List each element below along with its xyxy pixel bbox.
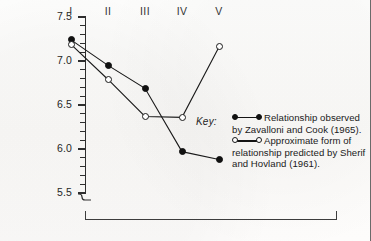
open-circle-line-icon	[232, 136, 262, 145]
data-point-marker	[142, 85, 149, 92]
data-point-marker	[105, 76, 112, 83]
legend-entries: Relationship observed by Zavalloni and C…	[232, 112, 368, 170]
filled-circle-line-icon	[232, 113, 262, 122]
data-point-marker	[179, 114, 186, 121]
data-point-marker	[68, 41, 75, 48]
data-point-marker	[105, 62, 112, 69]
series-line-1	[71, 40, 219, 160]
data-point-marker	[216, 43, 223, 50]
data-point-marker	[216, 156, 223, 163]
legend-key-label: Key:	[196, 116, 217, 127]
data-point-marker	[142, 113, 149, 120]
legend-entry-predicted: Approximate form of relationship predict…	[232, 135, 368, 170]
figure-page: 7.57.06.56.05.5 IIIIIIIVV Key: Relations…	[0, 0, 371, 241]
legend-entry-observed: Relationship observed by Zavalloni and C…	[232, 112, 368, 135]
data-point-marker	[179, 148, 186, 155]
